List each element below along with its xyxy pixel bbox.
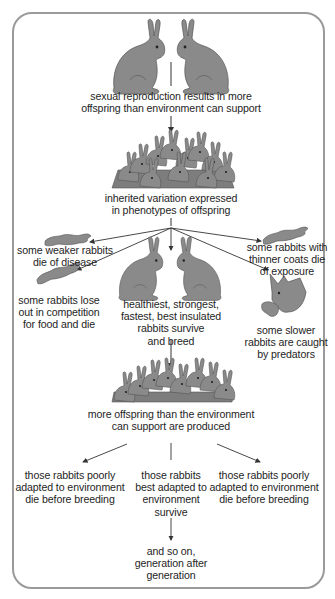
poorly-adapted-right-label: those rabbits poorly adapted to environm… [208,469,320,506]
survivors-label: healthiest, strongest, fastest, best ins… [112,298,230,347]
predators-label: some slower rabbits are caught by predat… [236,324,335,361]
exposure-label: some rabbits with thinner coats die of e… [242,241,332,278]
parent-rabbit-right-icon [177,19,229,94]
weaker-label: some weaker rabbits die of disease [10,244,120,268]
best-adapted-label: those rabbits best adapted to environmen… [130,469,212,518]
overproduction-pile-icon [112,358,235,402]
survivor-rabbit-left-icon [119,237,163,301]
poorly-adapted-left-label: those rabbits poorly adapted to environm… [14,469,126,506]
continues-label: and so on, generation after generation [124,545,218,582]
parent-rabbit-left-icon [113,19,165,94]
offspring-label: inherited variation expressed in phenoty… [90,192,252,216]
parents-label: sexual reproduction results in more offs… [60,90,282,114]
fox-with-rabbit-icon [262,274,306,316]
competition-label: some rabbits lose out in competition for… [10,294,108,331]
overproduction-label: more offspring than the environment can … [60,408,282,432]
offspring-pile-icon [112,130,235,188]
